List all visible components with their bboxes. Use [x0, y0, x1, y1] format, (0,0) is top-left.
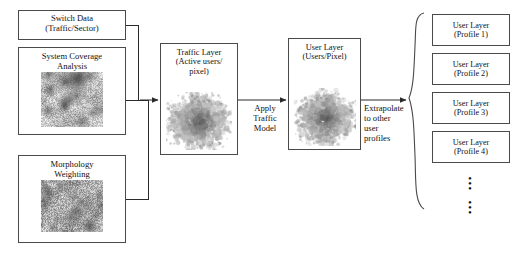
connector-label-apply-traffic-model: Apply Traffic Model [243, 104, 287, 134]
profile-label-4: User Layer (Profile 4) [453, 138, 490, 156]
traffic-layer-raster [166, 92, 232, 150]
stage-label-traffic-layer: Traffic Layer (Active users/ pixel) [161, 48, 237, 76]
stage-label-user-layer: User Layer (Users/Pixel) [289, 43, 360, 62]
input-label-morphology: Morphology Weighting [19, 160, 125, 179]
profile-label-2: User Layer (Profile 2) [453, 60, 490, 78]
profile-box-3: User Layer (Profile 3) [432, 92, 510, 124]
input-label-switch-data: Switch Data (Traffic/Sector) [19, 14, 125, 33]
profile-label-1: User Layer (Profile 1) [453, 21, 490, 39]
diagram-canvas: Switch Data (Traffic/Sector) System Cove… [0, 0, 519, 256]
ellipsis-dots-lower: ••• [455, 200, 485, 215]
profile-label-3: User Layer (Profile 3) [453, 99, 490, 117]
ellipsis-dots-upper: ••• [455, 176, 485, 191]
profile-box-2: User Layer (Profile 2) [432, 53, 510, 85]
connector-label-extrapolate: Extrapolate to other user profiles [364, 104, 410, 144]
input-box-switch-data: Switch Data (Traffic/Sector) [18, 10, 126, 40]
input-label-system-coverage: System Coverage Analysis [19, 52, 125, 71]
user-layer-raster [294, 88, 356, 146]
profile-box-1: User Layer (Profile 1) [432, 14, 510, 46]
profile-box-4: User Layer (Profile 4) [432, 131, 510, 163]
coverage-map-raster [41, 72, 103, 127]
morphology-map-raster [41, 180, 103, 232]
